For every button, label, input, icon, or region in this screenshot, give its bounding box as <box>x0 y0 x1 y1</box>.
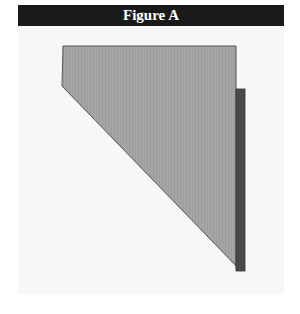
dark-bar-shape <box>236 89 245 271</box>
figure-graphic <box>0 0 300 314</box>
gray-polygon-shape <box>62 46 241 271</box>
